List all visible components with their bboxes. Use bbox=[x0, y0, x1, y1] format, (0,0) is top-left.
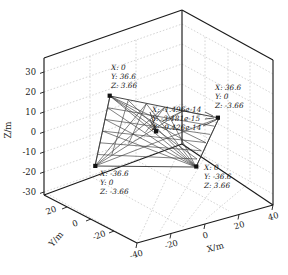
datatip-x-line: X: 36.6 bbox=[214, 83, 242, 92]
y-tick-label: 20 bbox=[44, 204, 57, 217]
y-tick-label: 0 bbox=[71, 218, 79, 229]
z-tick-label: -30 bbox=[23, 187, 37, 197]
datatip-bottom-left[interactable]: X: -36.6 Y: 0 Z: -3.66 bbox=[99, 169, 129, 196]
datatip-x-line: X: 0 bbox=[110, 63, 126, 72]
datatip-marker-top-left[interactable] bbox=[108, 94, 112, 98]
z-tick-label: 0 bbox=[31, 127, 36, 137]
datatip-z-line: Z: -9.426e-14 bbox=[151, 123, 202, 132]
y-axis-label: Y/m bbox=[46, 229, 65, 249]
datatip-z-line: Z: -3.66 bbox=[214, 101, 244, 110]
datatip-center[interactable]: X: -1.496e-14 Y: -3.481e-15 Z: -9.426e-1… bbox=[151, 105, 202, 132]
y-axis-ticks bbox=[62, 207, 114, 233]
datatip-z-line: Z: 3.66 bbox=[110, 81, 137, 90]
x-axis-label: X/m bbox=[206, 240, 225, 254]
plot-canvas: 30 20 10 0 -10 -20 -30 Z/m 20 0 -20 Y/m … bbox=[0, 0, 288, 275]
datatip-marker-right[interactable] bbox=[216, 116, 220, 120]
datatip-y-line: Y: 36.6 bbox=[111, 72, 136, 81]
box-top-right-edge bbox=[182, 10, 273, 60]
grid-lines bbox=[44, 24, 273, 243]
z-axis-ticks bbox=[40, 72, 44, 193]
datatip-y-line: Y: -36.6 bbox=[204, 172, 232, 181]
x-tick-label: 20 bbox=[233, 219, 246, 231]
z-tick-label: 10 bbox=[25, 107, 36, 117]
z-tick-label: 20 bbox=[25, 87, 36, 97]
x-tick-label: -20 bbox=[163, 238, 179, 251]
z-axis-tick-labels: 30 20 10 0 -10 -20 -30 bbox=[23, 67, 37, 197]
datatip-x-line: X: -36.6 bbox=[99, 169, 129, 178]
datatip-bottom-right[interactable]: X: 0 Y: -36.6 Z: 3.66 bbox=[203, 163, 232, 190]
datatip-marker-bottom-left[interactable] bbox=[93, 164, 97, 168]
y-tick-label: -20 bbox=[91, 228, 107, 242]
datatip-top-left[interactable]: X: 0 Y: 36.6 Z: 3.66 bbox=[110, 63, 137, 90]
box-top-left-edge bbox=[44, 10, 182, 58]
x-axis-ticks bbox=[136, 205, 273, 248]
datatip-y-line: Y: 0 bbox=[100, 178, 114, 187]
datatip-y-line: Y: 0 bbox=[215, 92, 229, 101]
figure-3d-surface-plot: 30 20 10 0 -10 -20 -30 Z/m 20 0 -20 Y/m … bbox=[0, 0, 288, 275]
x-tick-label: 40 bbox=[267, 210, 280, 222]
datatip-marker-bottom-right[interactable] bbox=[194, 164, 198, 168]
z-tick-label: 30 bbox=[25, 67, 36, 77]
x-tick-label: 0 bbox=[201, 230, 209, 241]
datatip-right[interactable]: X: 36.6 Y: 0 Z: -3.66 bbox=[214, 83, 244, 110]
datatip-z-line: Z: 3.66 bbox=[203, 181, 230, 190]
datatip-x-line: X: -1.496e-14 bbox=[151, 105, 202, 114]
datatip-y-line: Y: -3.481e-15 bbox=[152, 114, 200, 123]
x-tick-label: -40 bbox=[128, 248, 144, 261]
x-axis-tick-labels: -40 -20 0 20 40 bbox=[128, 210, 279, 261]
z-tick-label: -10 bbox=[23, 147, 37, 157]
z-axis-label: Z/m bbox=[3, 121, 13, 138]
datatip-z-line: Z: -3.66 bbox=[99, 187, 129, 196]
datatip-x-line: X: 0 bbox=[203, 163, 219, 172]
z-tick-label: -20 bbox=[23, 167, 37, 177]
